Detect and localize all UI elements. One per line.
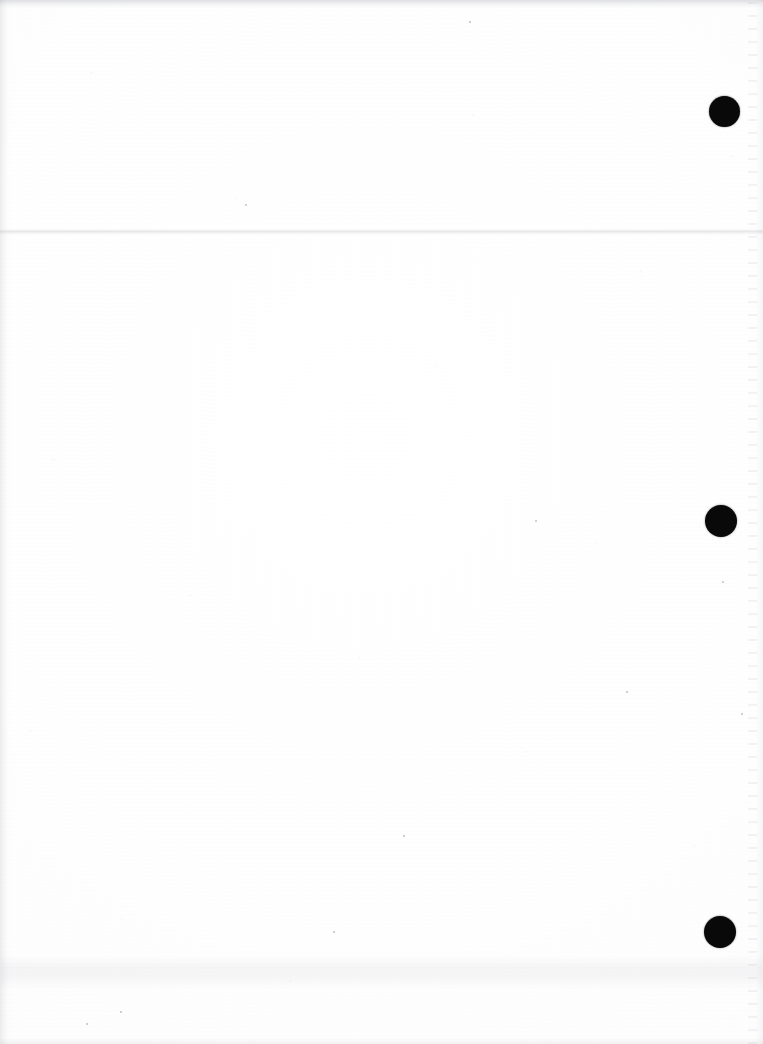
page-edge-shadow-right [756,0,763,1044]
register-dot-top [709,96,740,127]
page-edge-shadow-bottom [0,1038,763,1044]
paper-grain-layer [0,0,763,1044]
register-dot-bottom [704,916,736,948]
dust-speck [535,520,537,522]
dust-speck [86,1023,88,1025]
scan-smudge-band [0,955,763,989]
dust-speck [469,21,471,23]
scan-speckle-column [748,0,757,1044]
page-edge-shadow-left [0,0,9,1044]
page-edge-shadow-top [0,0,763,8]
dust-speck [333,931,335,933]
scan-streak-line [0,229,763,235]
dust-speck [741,713,743,715]
scanned-page-canvas [0,0,763,1044]
register-dot-middle [705,505,737,537]
dust-speck [626,691,628,693]
dust-speck [403,835,405,837]
